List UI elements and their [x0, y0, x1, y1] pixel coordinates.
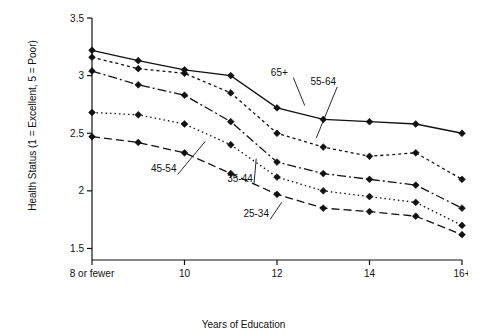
- data-point-marker: [89, 133, 96, 140]
- y-tick-label: 1.5: [70, 243, 84, 254]
- chart-container: Health Status (1 = Excellent, 5 = Poor) …: [0, 0, 487, 333]
- data-point-marker: [89, 109, 96, 116]
- series-annotation-label: 45-54: [151, 163, 177, 174]
- data-point-marker: [412, 182, 419, 189]
- data-point-marker: [181, 121, 188, 128]
- series-line-65+: [92, 50, 462, 133]
- data-point-marker: [366, 176, 373, 183]
- series-annotation-label: 25-34: [243, 208, 269, 219]
- data-point-marker: [320, 144, 327, 151]
- data-point-marker: [459, 130, 466, 137]
- data-point-marker: [89, 54, 96, 61]
- data-point-marker: [459, 222, 466, 229]
- data-point-marker: [412, 121, 419, 128]
- annotation-leader-line: [254, 159, 256, 184]
- data-point-marker: [320, 170, 327, 177]
- y-tick-label: 3: [78, 70, 84, 81]
- x-tick-label: 14: [364, 268, 376, 279]
- data-point-marker: [135, 65, 142, 72]
- data-point-marker: [135, 81, 142, 88]
- plot-area: 1.522.533.58 or fewer10121416+65+55-6445…: [58, 10, 468, 288]
- series-annotation-label: 35-44: [227, 173, 253, 184]
- x-tick-label: 16+: [454, 268, 468, 279]
- series-line-45-54: [92, 71, 462, 208]
- x-tick-label: 10: [179, 268, 191, 279]
- data-point-marker: [459, 176, 466, 183]
- annotation-leader-line: [316, 87, 337, 138]
- data-point-marker: [89, 68, 96, 75]
- y-tick-label: 2: [78, 185, 84, 196]
- annotation-leader-line: [178, 141, 206, 174]
- data-point-marker: [227, 141, 234, 148]
- series-annotation-label: 65+: [271, 67, 288, 78]
- data-point-marker: [412, 213, 419, 220]
- data-point-marker: [274, 174, 281, 181]
- data-point-marker: [366, 193, 373, 200]
- data-point-marker: [320, 187, 327, 194]
- y-tick-label: 3.5: [70, 13, 84, 24]
- data-point-marker: [274, 130, 281, 137]
- line-chart-svg: 1.522.533.58 or fewer10121416+65+55-6445…: [58, 10, 468, 288]
- data-point-marker: [181, 149, 188, 156]
- data-point-marker: [135, 57, 142, 64]
- y-axis-label: Health Status (1 = Excellent, 5 = Poor): [27, 6, 38, 246]
- data-point-marker: [274, 191, 281, 198]
- data-point-marker: [227, 90, 234, 97]
- data-point-marker: [89, 47, 96, 54]
- data-point-marker: [412, 199, 419, 206]
- x-axis-label: Years of Education: [0, 319, 487, 330]
- data-point-marker: [366, 118, 373, 125]
- y-tick-label: 2.5: [70, 128, 84, 139]
- x-tick-label: 12: [271, 268, 283, 279]
- x-tick-label: 8 or fewer: [70, 268, 115, 279]
- data-point-marker: [366, 153, 373, 160]
- data-point-marker: [135, 139, 142, 146]
- data-point-marker: [412, 149, 419, 156]
- annotation-leader-line: [293, 78, 304, 106]
- data-point-marker: [459, 231, 466, 238]
- data-point-marker: [459, 205, 466, 212]
- data-point-marker: [135, 111, 142, 118]
- series-line-25-34: [92, 137, 462, 235]
- data-point-marker: [181, 92, 188, 99]
- data-point-marker: [366, 208, 373, 215]
- data-point-marker: [320, 205, 327, 212]
- series-annotation-label: 55-64: [310, 76, 336, 87]
- annotation-leader-line: [270, 202, 281, 219]
- data-point-marker: [227, 118, 234, 125]
